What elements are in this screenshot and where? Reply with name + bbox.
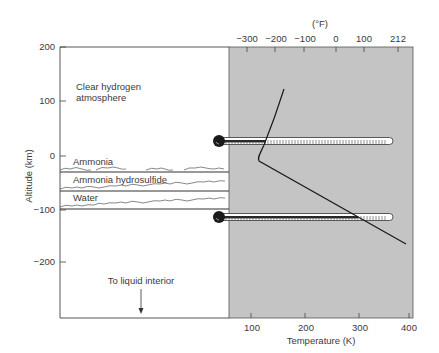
y-tick-label: −200 — [34, 256, 55, 267]
top-axis-label: (°F) — [312, 18, 328, 29]
diagram-canvas: 200 100 0 −100 −200 Altitude (km) (°F) −… — [0, 0, 439, 353]
top-tick-label: 100 — [356, 33, 372, 44]
clear-atmosphere-label: Clear hydrogen — [76, 81, 141, 92]
liquid-interior-label: To liquid interior — [108, 275, 175, 286]
top-tick-label: 0 — [333, 33, 338, 44]
cloud-layer-water: Water — [60, 192, 229, 209]
y-ticks — [60, 47, 66, 262]
x-tick-label: 100 — [244, 322, 260, 333]
y-tick-label: 0 — [50, 150, 55, 161]
x-tick-label: 300 — [352, 322, 368, 333]
x-tick-label: 400 — [401, 322, 417, 333]
top-tick-label: −100 — [294, 33, 315, 44]
x-tick-label: 200 — [298, 322, 314, 333]
water-label: Water — [73, 192, 98, 203]
y-tick-label: 100 — [39, 95, 55, 106]
y-tick-label: −100 — [34, 204, 55, 215]
down-arrow-icon — [139, 289, 144, 314]
ammonia-label: Ammonia — [73, 156, 114, 167]
y-axis-label: Altitude (km) — [23, 149, 34, 202]
cloud-layer-ammonia: Ammonia — [60, 156, 229, 172]
top-tick-label: −200 — [265, 33, 286, 44]
top-tick-label: 212 — [390, 33, 406, 44]
cloud-layer-ammonia-hydrosulfide: Ammonia hydrosulfide — [60, 174, 229, 191]
y-tick-label: 200 — [39, 41, 55, 52]
temperature-panel — [229, 47, 413, 318]
clear-atmosphere-label: atmosphere — [76, 92, 126, 103]
x-axis-label: Temperature (K) — [287, 335, 356, 346]
top-tick-label: −300 — [236, 33, 257, 44]
ammonia-hydrosulfide-label: Ammonia hydrosulfide — [73, 174, 167, 185]
